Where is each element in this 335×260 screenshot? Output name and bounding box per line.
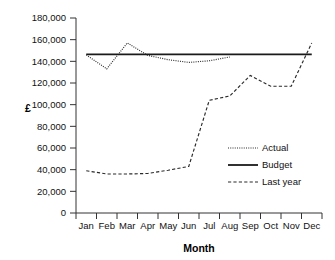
x-axis-title: Month bbox=[183, 242, 215, 254]
y-axis: 020,00040,00060,00080,000100,000120,0001… bbox=[32, 12, 76, 218]
x-tick-label: Apr bbox=[140, 220, 155, 231]
y-axis-title: £ bbox=[25, 102, 31, 114]
x-axis: JanFebMarAprMayJunJulAugSepOctNovDec bbox=[76, 213, 322, 231]
legend-label-budget: Budget bbox=[262, 159, 292, 170]
y-tick-label: 180,000 bbox=[32, 12, 66, 23]
chart-legend: ActualBudgetLast year bbox=[228, 142, 301, 187]
x-tick-label: Jan bbox=[79, 220, 94, 231]
y-tick-label: 40,000 bbox=[37, 164, 66, 175]
y-tick-label: 140,000 bbox=[32, 56, 66, 67]
y-tick-label: 80,000 bbox=[37, 121, 66, 132]
x-tick-label: Jul bbox=[203, 220, 215, 231]
x-tick-label: Sep bbox=[242, 220, 259, 231]
y-tick-label: 20,000 bbox=[37, 186, 66, 197]
x-tick-label: May bbox=[159, 220, 177, 231]
data-series-group bbox=[86, 43, 312, 174]
x-tick-label: Nov bbox=[283, 220, 300, 231]
y-tick-label: 160,000 bbox=[32, 34, 66, 45]
series-line-last-year bbox=[86, 43, 312, 174]
x-tick-label: Jun bbox=[181, 220, 196, 231]
y-tick-label: 120,000 bbox=[32, 77, 66, 88]
series-line-actual bbox=[86, 43, 230, 69]
x-tick-label: Mar bbox=[119, 220, 135, 231]
chart-canvas: 020,00040,00060,00080,000100,000120,0001… bbox=[0, 0, 335, 260]
x-tick-label: Dec bbox=[303, 220, 320, 231]
x-tick-label: Feb bbox=[99, 220, 115, 231]
legend-label-actual: Actual bbox=[262, 142, 288, 153]
x-tick-label: Oct bbox=[263, 220, 278, 231]
x-tick-label: Aug bbox=[221, 220, 238, 231]
y-tick-label: 60,000 bbox=[37, 142, 66, 153]
line-chart: 020,00040,00060,00080,000100,000120,0001… bbox=[0, 0, 335, 260]
y-tick-label: 100,000 bbox=[32, 99, 66, 110]
legend-label-last-year: Last year bbox=[262, 176, 301, 187]
y-tick-label: 0 bbox=[61, 207, 66, 218]
